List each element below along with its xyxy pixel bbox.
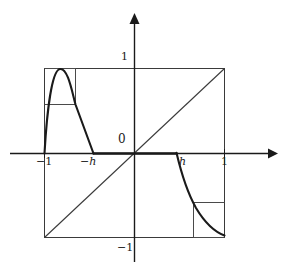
x-axis-arrowhead [268,149,278,159]
x-tick-label-one: 1 [221,156,228,167]
y-tick-label-one: 1 [121,51,128,62]
curve-left-bump [45,69,94,154]
x-tick-label-minus-one: −1 [36,156,52,167]
y-axis-arrowhead [130,13,140,24]
figure-canvas: −1 −h 1 1 −1 0 h [0,0,282,277]
y-tick-label-minus-one: −1 [117,242,133,253]
origin-label: 0 [118,133,126,145]
plot-svg [0,0,282,277]
x-tick-label-minus-h: −h [80,156,96,167]
x-tick-label-h: h [179,156,186,167]
